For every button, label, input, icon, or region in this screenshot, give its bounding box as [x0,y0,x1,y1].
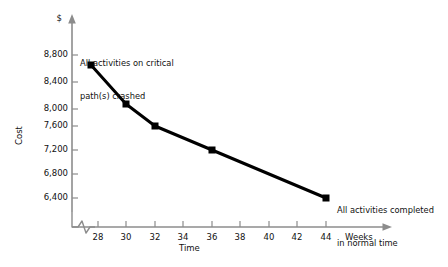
y-tick-label-6800: 6,800 [22,168,68,178]
y-axis [68,14,76,212]
y-tick-label-8000: 8,000 [22,103,68,113]
x-tick-label-40: 40 [257,232,281,242]
annotation-crashed: All activities on critical path(s) crash… [80,36,174,124]
data-point-marker [323,195,330,202]
y-axis-title: Cost [14,126,24,145]
y-tick-label-7200: 7,200 [22,144,68,154]
x-tick-label-36: 36 [200,232,224,242]
x-tick-label-42: 42 [285,232,309,242]
x-tick-label-30: 30 [114,232,138,242]
data-point-marker [209,147,216,154]
x-tick-label-34: 34 [171,232,195,242]
y-tick-label-7600: 7,600 [22,120,68,130]
x-axis-title: Time [179,243,200,253]
y-tick-label-6400: 6,400 [22,192,68,202]
y-axis-unit-label: $ [48,13,62,23]
annotation-normal-time-line2: in normal time [337,238,434,249]
annotation-crashed-line1: All activities on critical [80,58,174,69]
y-tick-label-8400: 8,400 [22,76,68,86]
data-point-marker [152,123,159,130]
cost-time-line-chart: $ 8,800 8,400 8,000 7,600 7,200 6,800 6,… [0,0,448,267]
x-tick-label-44: 44 [314,232,338,242]
y-tick-label-8800: 8,800 [22,49,68,59]
annotation-normal-time: All activities completed in normal time [337,183,434,267]
x-tick-label-32: 32 [143,232,167,242]
annotation-normal-time-line1: All activities completed [337,205,434,216]
y-axis-ticks [72,55,78,198]
x-tick-label-28: 28 [86,232,110,242]
annotation-crashed-line2: path(s) crashed [80,91,174,102]
x-axis-break-icon [72,212,95,233]
x-axis-ticks [98,221,326,227]
x-tick-label-38: 38 [228,232,252,242]
